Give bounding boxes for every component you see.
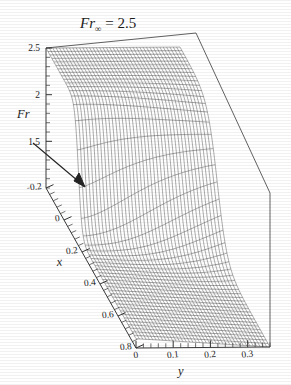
x-axis-tick xyxy=(50,192,55,194)
surface-plot-svg: Fr∞ = 2.5 2.521.5 F xyxy=(0,0,291,385)
y-axis-tick-label: 0.1 xyxy=(166,349,179,360)
x-axis-tick-label: 0.4 xyxy=(83,277,96,288)
x-axis-tick xyxy=(93,269,98,271)
z-axis-tick-label: 1.5 xyxy=(28,137,40,147)
x-axis-tick xyxy=(129,333,134,335)
x-axis-tick xyxy=(111,301,116,303)
x-axis-tick-label: -0.2 xyxy=(26,181,42,193)
title-symbol: Fr xyxy=(79,15,95,31)
x-axis-tick xyxy=(57,205,62,207)
x-axis-tick xyxy=(82,249,90,252)
x-axis-tick xyxy=(96,275,101,277)
z-axis-label: Fr xyxy=(16,107,30,121)
x-axis-tick xyxy=(75,237,80,239)
mesh-line-x xyxy=(87,215,221,251)
y-axis-tick-label: 0 xyxy=(133,350,139,360)
wireframe-surface xyxy=(46,47,270,347)
x-axis-tick xyxy=(104,288,109,290)
y-axis-tick-label: 0.3 xyxy=(241,349,254,360)
x-axis-tick xyxy=(60,211,65,213)
figure-canvas: Fr∞ = 2.5 2.521.5 F xyxy=(0,0,291,385)
y-axis: 00.10.20.3 xyxy=(133,340,270,360)
x-axis: -0.200.20.40.60.8 xyxy=(26,181,143,352)
x-axis-tick xyxy=(78,243,83,245)
svg-text:Fr∞ = 2.5: Fr∞ = 2.5 xyxy=(79,15,136,34)
x-axis-tick xyxy=(107,295,112,297)
y-axis-label: y xyxy=(176,364,184,378)
mesh-line-y xyxy=(63,48,153,340)
x-axis-label: x xyxy=(55,254,63,269)
plot-title: Fr∞ = 2.5 xyxy=(79,15,136,34)
x-axis-tick xyxy=(125,327,130,329)
x-axis-tick xyxy=(64,217,72,220)
z-axis: 2.521.5 xyxy=(28,43,52,188)
mesh-line-x xyxy=(107,286,241,293)
x-axis-tick xyxy=(86,256,91,258)
mesh-line-x xyxy=(68,87,202,91)
x-axis-tick xyxy=(71,231,76,233)
x-axis-tick-label: 0.8 xyxy=(119,341,132,352)
y-axis-tick-label: 0.2 xyxy=(204,349,217,360)
z-axis-tick-label: 2.5 xyxy=(28,43,40,53)
x-axis-tick xyxy=(122,320,127,322)
x-axis-tick-label: 0 xyxy=(54,213,60,223)
x-axis-tick xyxy=(46,185,54,188)
title-equals-value: = 2.5 xyxy=(101,15,136,31)
x-axis-tick xyxy=(132,339,137,341)
x-axis-tick xyxy=(53,199,58,201)
x-axis-tick-label: 0.2 xyxy=(65,245,78,256)
x-axis-tick xyxy=(89,263,94,265)
z-axis-tick-label: 2 xyxy=(35,90,40,100)
x-axis-tick xyxy=(68,224,73,226)
mesh-line-y xyxy=(59,48,149,340)
x-axis-tick xyxy=(114,307,119,309)
x-axis-tick-label: 0.6 xyxy=(101,309,114,320)
